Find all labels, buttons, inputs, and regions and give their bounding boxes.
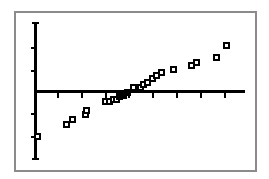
- screenshot-root: [0, 0, 269, 179]
- scatter-plot: [0, 0, 269, 179]
- data-point: [223, 42, 230, 49]
- x-axis-tick: [200, 93, 202, 98]
- data-point: [170, 66, 177, 73]
- data-point: [34, 133, 41, 140]
- x-axis-tick: [176, 93, 178, 98]
- x-axis-tick: [224, 93, 226, 98]
- y-axis-bottom-cap: [32, 158, 39, 160]
- y-axis-tick: [31, 113, 37, 115]
- data-point: [193, 59, 200, 66]
- y-axis-tick: [31, 47, 37, 49]
- x-axis-tick: [57, 93, 59, 98]
- x-axis-tick: [152, 93, 154, 98]
- data-point: [130, 84, 137, 91]
- data-point: [158, 69, 165, 76]
- data-point: [83, 107, 90, 114]
- x-axis-tick: [81, 93, 83, 98]
- y-axis-top-cap: [32, 22, 39, 24]
- data-point: [69, 116, 76, 123]
- data-point: [213, 54, 220, 61]
- y-axis-tick: [31, 70, 37, 72]
